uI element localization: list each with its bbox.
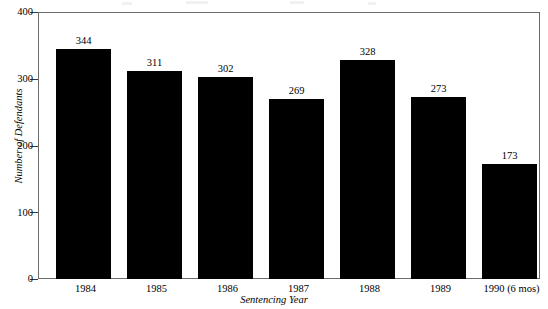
bar-1990[interactable] [482, 164, 537, 279]
bar-1988[interactable] [340, 60, 395, 279]
bar-value-1986: 302 [198, 63, 253, 75]
scan-artifact [186, 1, 208, 4]
bar-1985[interactable] [127, 71, 182, 279]
bar-chart-figure: 400 300 200 100 0 Number of Defendants 3… [0, 0, 548, 309]
bar-1984[interactable] [56, 49, 111, 279]
bar-value-1987: 269 [269, 85, 324, 97]
scan-artifact [368, 2, 376, 5]
bar-value-1984: 344 [56, 35, 111, 47]
bar-value-1985: 311 [127, 57, 182, 69]
bar-1989[interactable] [411, 97, 466, 279]
bar-value-1990: 173 [482, 150, 537, 162]
bar-1986[interactable] [198, 77, 253, 279]
bar-value-1989: 273 [411, 83, 466, 95]
bar-value-1988: 328 [340, 46, 395, 58]
bars-layer: 344 311 302 269 328 273 173 [38, 12, 540, 279]
bar-1987[interactable] [269, 99, 324, 279]
scan-artifact [290, 1, 304, 4]
scan-artifact [122, 2, 132, 5]
y-tick-label-400: 400 [0, 6, 33, 17]
x-axis-title: Sentencing Year [0, 294, 548, 306]
y-axis-title: Number of Defendants [13, 61, 25, 211]
